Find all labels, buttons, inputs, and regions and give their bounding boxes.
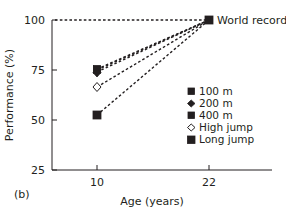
- world-record-label: World record: [217, 14, 286, 27]
- legend-item-high-jump: High jump: [188, 121, 254, 133]
- legend-item-200m: 200 m: [188, 97, 233, 109]
- legend-item-long-jump: Long jump: [188, 133, 255, 145]
- data-point-convergence-age22: [205, 16, 213, 24]
- series-line-high-jump: [97, 20, 209, 87]
- legend-label-long-jump: Long jump: [199, 133, 255, 145]
- data-point-long-jump-age10: [93, 111, 101, 119]
- legend-item-100m: 100 m: [188, 85, 233, 97]
- legend-item-400m: 400 m: [188, 109, 233, 121]
- legend-label-high-jump: High jump: [199, 121, 253, 133]
- performance-vs-age-chart: Performance (%) 100 75 50 25 10 22 Age (…: [0, 0, 286, 213]
- series-line-200m: [97, 20, 209, 72]
- figure-panel-b: Performance (%) 100 75 50 25 10 22 Age (…: [0, 0, 286, 213]
- panel-label: (b): [14, 188, 30, 201]
- y-tick-label-75: 75: [31, 64, 45, 77]
- series-line-400m: [97, 20, 209, 69]
- legend-label-400m: 400 m: [199, 109, 233, 121]
- y-tick-label-100: 100: [24, 14, 45, 27]
- x-tick-label-22: 22: [202, 176, 216, 189]
- x-tick-label-10: 10: [90, 176, 104, 189]
- y-tick-label-25: 25: [31, 164, 45, 177]
- x-axis-label: Age (years): [120, 195, 184, 208]
- data-point-high-jump-age10: [93, 83, 101, 92]
- legend-label-200m: 200 m: [199, 97, 233, 109]
- y-axis-label: Performance (%): [3, 49, 16, 141]
- y-tick-label-50: 50: [31, 114, 45, 127]
- series-line-100m: [97, 20, 209, 70]
- legend-label-100m: 100 m: [199, 85, 233, 97]
- legend: 100 m 200 m 400 m High jump Long jump: [188, 85, 255, 145]
